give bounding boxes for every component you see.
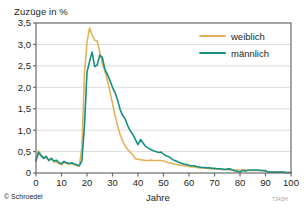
y-tick-label: 2,0 (18, 82, 31, 93)
plot-frame (36, 23, 291, 173)
x-tick-label: 80 (235, 177, 246, 188)
x-tick-label: 20 (82, 177, 93, 188)
x-tick-label: 100 (283, 177, 299, 188)
x-tick-label: 10 (56, 177, 67, 188)
x-axis-title: Jahre (146, 192, 170, 203)
y-tick-label: 2,5 (18, 60, 31, 71)
x-axis: 0102030405060708090100 (33, 173, 299, 188)
y-tick-label: 1,0 (18, 125, 31, 136)
x-tick-label: 60 (184, 177, 195, 188)
chart-plot: 00,51,01,52,02,53,03,5010203040506070809… (0, 0, 304, 208)
x-tick-label: 70 (209, 177, 220, 188)
y-tick-label: 0 (26, 167, 31, 178)
y-tick-label: 3,0 (18, 39, 31, 50)
x-tick-label: 40 (133, 177, 144, 188)
x-tick-label: 90 (260, 177, 271, 188)
copyright-notice: © Schroedel (4, 193, 43, 200)
chart-container: Zuzüge in % 00,51,01,52,02,53,03,5010203… (0, 0, 304, 208)
legend-label-männlich: männlich (231, 48, 269, 59)
legend-label-weiblich: weiblich (230, 31, 265, 42)
gridlines (36, 44, 291, 151)
x-tick-label: 0 (33, 177, 38, 188)
y-axis: 00,51,01,52,02,53,03,5 (18, 17, 36, 178)
figure-code: 7343H (272, 196, 288, 202)
y-tick-label: 1,5 (18, 103, 31, 114)
x-tick-label: 30 (107, 177, 118, 188)
x-tick-label: 50 (158, 177, 169, 188)
y-tick-label: 3,5 (18, 17, 31, 28)
series-line-männlich (36, 52, 291, 172)
y-tick-label: 0,5 (18, 146, 31, 157)
